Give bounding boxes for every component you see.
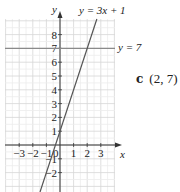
graph: −3−2−1123−2−112345678 [0, 0, 180, 192]
x-axis-label: x [120, 149, 125, 160]
y-tick-label: 5 [52, 70, 58, 82]
y-tick-label: −2 [45, 167, 57, 179]
y-axis-arrow-icon [58, 11, 63, 18]
answer-value: (2, 7) [149, 71, 177, 86]
y-tick-label: 4 [52, 84, 58, 96]
x-axis-arrow-icon [115, 143, 122, 148]
y-axis-label: y [52, 4, 57, 15]
y-tick-label: 2 [52, 111, 58, 123]
y-tick-label: 3 [52, 98, 58, 110]
x-tick-label: −2 [27, 147, 39, 159]
origin-label: 0 [53, 148, 59, 159]
y-tick-label: 1 [52, 125, 58, 137]
y-tick-label: 6 [52, 56, 58, 68]
answer-part-label: c [136, 72, 143, 86]
y-tick-label: 8 [52, 29, 58, 41]
x-tick-label: −3 [13, 147, 25, 159]
x-tick-label: 3 [98, 147, 104, 159]
x-tick-label: 1 [71, 147, 77, 159]
line2-label: y = 7 [118, 42, 141, 53]
x-tick-label: 2 [84, 147, 90, 159]
answer: c(2, 7) [136, 71, 177, 87]
line1-label: y = 3x + 1 [79, 5, 126, 16]
